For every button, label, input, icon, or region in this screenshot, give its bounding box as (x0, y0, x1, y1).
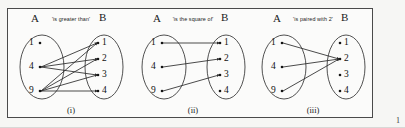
label-b-2-ii: 2 (224, 54, 229, 64)
label-a-1-i: 1 (29, 38, 34, 48)
label-a-4-iii: 4 (271, 62, 276, 72)
node-a-9-i (39, 90, 42, 93)
node-b-2-iii (339, 58, 342, 61)
label-b-3-ii: 3 (224, 70, 229, 80)
label-b-1-iii: 1 (344, 38, 349, 48)
arrow-4-to-2-iii (283, 59, 339, 67)
node-b-1-i (97, 42, 100, 45)
label-a-9-iii: 9 (271, 86, 276, 96)
node-b-3-i (97, 74, 100, 77)
label-b-3-i: 3 (102, 70, 107, 80)
node-a-4-iii (281, 66, 284, 69)
node-a-1-i (39, 42, 42, 45)
label-a-4-i: 4 (29, 62, 34, 72)
node-b-1-ii (219, 42, 222, 45)
node-a-4-ii (161, 66, 164, 69)
node-a-4-i (39, 66, 42, 69)
node-b-4-iii (339, 90, 342, 93)
arrow-4-to-2-ii (163, 59, 219, 67)
label-a-1-iii: 1 (271, 38, 276, 48)
arrow-4-to-3-i (41, 67, 97, 75)
page-canvas: A B 'is greater than' (0, 0, 405, 128)
node-b-1-iii (339, 42, 342, 45)
label-b-3-iii: 3 (344, 70, 349, 80)
node-a-9-iii (281, 90, 284, 93)
node-b-2-ii (219, 58, 222, 61)
label-b-4-iii: 4 (344, 86, 349, 96)
label-b-4-i: 4 (102, 86, 107, 96)
node-a-1-ii (161, 42, 164, 45)
caption-ii: (ii) (132, 105, 254, 115)
node-b-2-i (97, 58, 100, 61)
node-b-4-i (97, 90, 100, 93)
caption-iii: (iii) (252, 105, 374, 115)
caption-i: (i) (10, 105, 132, 115)
node-a-1-iii (281, 42, 284, 45)
node-a-9-ii (161, 90, 164, 93)
label-b-4-ii: 4 (224, 86, 229, 96)
mapping-diagram-ii: A B 'is the square of' (132, 9, 254, 119)
arrow-1-to-2-iii (283, 43, 339, 59)
label-b-1-ii: 1 (224, 38, 229, 48)
label-a-4-ii: 4 (151, 62, 156, 72)
mapping-diagram-i: A B 'is greater than' (10, 9, 132, 119)
bottom-divider (0, 127, 405, 128)
node-b-4-ii (219, 90, 222, 93)
arrow-9-to-3-ii (163, 75, 219, 91)
label-b-2-iii: 2 (344, 54, 349, 64)
label-a-1-ii: 1 (151, 38, 156, 48)
label-a-9-ii: 9 (151, 86, 156, 96)
mapping-diagram-iii: A B 'is paired with 2' (252, 9, 374, 119)
label-b-1-i: 1 (102, 38, 107, 48)
page-number: 1 (396, 116, 400, 125)
node-b-3-iii (339, 74, 342, 77)
label-b-2-i: 2 (102, 54, 107, 64)
arrow-9-to-3-i (41, 75, 97, 91)
label-a-9-i: 9 (29, 86, 34, 96)
arrow-9-to-1-i (41, 43, 97, 91)
node-b-3-ii (219, 74, 222, 77)
figure-frame: A B 'is greater than' (7, 8, 373, 118)
